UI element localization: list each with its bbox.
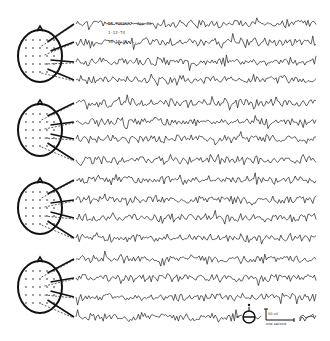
- electrode-dot: [25, 47, 27, 49]
- electrode-dot: [46, 47, 48, 49]
- eeg-trace: [76, 293, 316, 305]
- electrode-dot: [32, 55, 34, 57]
- eeg-trace: [76, 95, 316, 110]
- electrode-dot: [32, 302, 34, 304]
- electrode-dot: [32, 215, 34, 217]
- electrode-dot: [32, 145, 34, 147]
- electrode-dot: [32, 191, 34, 193]
- electrode-dot: [32, 207, 34, 209]
- electrode-dot: [39, 121, 41, 123]
- electrode-dot: [25, 215, 27, 217]
- electrode-dot: [53, 39, 55, 41]
- electrode-dot: [25, 207, 27, 209]
- eeg-trace: [76, 194, 316, 205]
- electrode-dot: [25, 55, 27, 57]
- electrode-dot: [39, 63, 41, 65]
- electrode-dot: [46, 223, 48, 225]
- electrode-dot: [25, 121, 27, 123]
- electrode-dot: [39, 207, 41, 209]
- electrode-dot: [46, 278, 48, 280]
- eeg-trace: [76, 154, 316, 165]
- electrode-dot: [46, 286, 48, 288]
- electrode-dot: [39, 55, 41, 57]
- electrode-dot: [25, 63, 27, 65]
- electrode-dot: [39, 145, 41, 147]
- electrode-dot: [25, 199, 27, 201]
- electrode-dot: [25, 286, 27, 288]
- electrode-dot: [39, 223, 41, 225]
- electrode-dot: [25, 39, 27, 41]
- electrode-dot: [32, 223, 34, 225]
- electrode-dot: [46, 113, 48, 115]
- electrode-dot: [46, 199, 48, 201]
- annotation-line-3: 10:18:10 ....: [108, 39, 142, 44]
- electrode-dot: [32, 294, 34, 296]
- electrode-dot: [39, 215, 41, 217]
- electrode-dot: [46, 121, 48, 123]
- electrode-dot: [32, 113, 34, 115]
- electrode-dot: [53, 121, 55, 123]
- electrode-dot: [39, 199, 41, 201]
- electrode-dot: [32, 39, 34, 41]
- eeg-trace: [76, 55, 316, 71]
- electrode-dot: [46, 270, 48, 272]
- electrode-dot: [39, 191, 41, 193]
- electrode-lead-dashed: [42, 25, 75, 46]
- electrode-dot: [46, 207, 48, 209]
- electrode-dot: [32, 137, 34, 139]
- electrode-dot: [39, 71, 41, 73]
- eeg-trace: [76, 173, 316, 185]
- electrode-dot: [25, 278, 27, 280]
- electrode-lead-dashed: [42, 73, 75, 81]
- electrode-dot: [25, 270, 27, 272]
- electrode-dot: [32, 71, 34, 73]
- annotation-line-2: 1-12-74: [108, 30, 125, 35]
- eye-stimulus-dot: [248, 304, 250, 306]
- electrode-dot: [46, 191, 48, 193]
- electrode-dot: [32, 286, 34, 288]
- electrode-dot: [25, 294, 27, 296]
- electrode-dot: [25, 302, 27, 304]
- eeg-trace: [76, 210, 316, 224]
- scale-time-label: one second: [266, 322, 286, 326]
- electrode-dot: [39, 278, 41, 280]
- eeg-trace: [76, 274, 316, 286]
- electrode-dot: [39, 302, 41, 304]
- electrode-dot: [32, 278, 34, 280]
- electrode-dot: [53, 47, 55, 49]
- electrode-dot: [39, 113, 41, 115]
- electrode-dot: [25, 71, 27, 73]
- electrode-dot: [46, 129, 48, 131]
- eeg-trace: [76, 251, 316, 266]
- electrode-dot: [39, 286, 41, 288]
- eeg-trace: [76, 233, 316, 245]
- eeg-trace: [76, 74, 316, 86]
- eeg-trace: [76, 116, 316, 129]
- eeg-figure: [0, 0, 330, 341]
- electrode-dot: [25, 113, 27, 115]
- electrode-lead-dashed: [45, 63, 75, 64]
- annotation-line-1: BB 7080697 Age 79: [108, 21, 151, 26]
- electrode-dot: [53, 286, 55, 288]
- electrode-dot: [32, 121, 34, 123]
- electrode-dot: [53, 129, 55, 131]
- electrode-dot: [39, 39, 41, 41]
- electrode-lead-dashed: [42, 104, 75, 120]
- electrode-dot: [32, 47, 34, 49]
- electrode-dot: [39, 47, 41, 49]
- electrode-dot: [46, 302, 48, 304]
- electrode-dot: [53, 199, 55, 201]
- electrode-dot: [32, 129, 34, 131]
- electrode-dot: [53, 55, 55, 57]
- scale-amplitude-label: 50 uV: [268, 312, 278, 316]
- electrode-dot: [25, 129, 27, 131]
- electrode-dot: [32, 199, 34, 201]
- electrode-lead: [51, 60, 75, 62]
- electrode-dot: [39, 129, 41, 131]
- electrode-dot: [46, 55, 48, 57]
- electrode-dot: [53, 207, 55, 209]
- electrode-dot: [46, 39, 48, 41]
- eeg-trace: [76, 132, 316, 146]
- electrode-dot: [32, 63, 34, 65]
- electrode-dot: [25, 145, 27, 147]
